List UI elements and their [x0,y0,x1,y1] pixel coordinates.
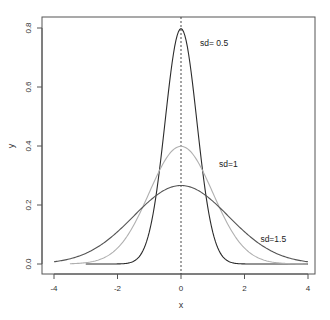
x-tick-label: -4 [50,284,58,293]
x-tick-label: 0 [179,284,184,293]
x-tick-label: -2 [114,284,122,293]
y-axis-title: y [6,143,16,148]
x-axis-title: x [179,300,184,310]
curve-label: sd=1.5 [260,234,286,244]
density-curves [54,29,308,264]
y-axis: 0.00.20.40.60.8 [24,22,42,270]
curve-annotations: sd= 0.5sd=1sd=1.5 [200,38,286,244]
y-tick-label: 0.2 [24,199,33,211]
curve-label: sd= 0.5 [200,38,228,48]
x-tick-label: 4 [306,284,311,293]
y-tick-label: 0.6 [24,81,33,93]
x-tick-label: 2 [242,284,247,293]
y-tick-label: 0.0 [24,258,33,270]
density-curve-sd1 [70,146,307,264]
y-tick-label: 0.4 [24,140,33,152]
curve-label: sd=1 [219,159,238,169]
y-tick-label: 0.8 [24,22,33,34]
density-curve-sd05 [86,29,308,264]
normal-density-chart: -4-2024 0.00.20.40.60.8 sd= 0.5sd=1sd=1.… [0,0,330,320]
x-axis: -4-2024 [50,274,310,293]
